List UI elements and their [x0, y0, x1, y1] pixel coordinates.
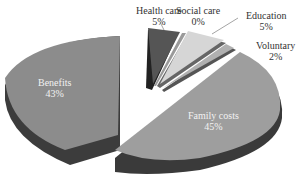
label-social-care: Social care0% [176, 5, 220, 27]
label-benefits: Benefits43% [38, 77, 71, 99]
label-education: Education5% [246, 10, 287, 32]
label-health-care: Health care5% [136, 5, 182, 27]
slice-benefits [5, 36, 120, 165]
label-family-costs: Family costs45% [188, 110, 239, 132]
label-voluntary: Voluntary2% [256, 40, 295, 62]
